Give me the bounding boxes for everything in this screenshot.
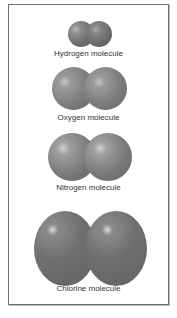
- hydrogen-label: Hydrogen molecule: [0, 49, 177, 59]
- chlorine-molecule: [34, 211, 147, 286]
- hydrogen-molecule: [68, 21, 112, 47]
- chlorine-label: Chlorine molecule: [0, 284, 177, 294]
- hydrogen-atom-right: [86, 21, 112, 47]
- nitrogen-molecule: [48, 133, 132, 181]
- nitrogen-atom-right: [84, 133, 132, 181]
- chlorine-atom-right: [85, 211, 147, 286]
- oxygen-atom-right: [84, 67, 127, 110]
- nitrogen-label: Nitrogen molecule: [0, 183, 177, 193]
- oxygen-label: Oxygen molecule: [0, 113, 177, 123]
- oxygen-molecule: [52, 67, 127, 110]
